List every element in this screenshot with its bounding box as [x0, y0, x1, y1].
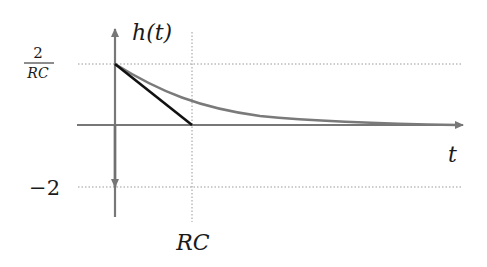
y-tick-bottom-label: −2: [29, 176, 60, 200]
x-tick-rc-label: RC: [175, 230, 210, 255]
y-tick-top-denominator: RC: [26, 65, 49, 81]
y-tick-top-numerator: 2: [33, 44, 43, 62]
impulse-response-plot: h(t) t 2 RC −2 RC: [0, 0, 487, 267]
y-tick-top-label: 2 RC: [24, 44, 54, 81]
exponential-decay-curve: [115, 64, 458, 125]
y-axis-label: h(t): [132, 20, 172, 45]
grid-lines: [78, 32, 462, 222]
tangent-line: [115, 64, 192, 125]
x-axis-label: t: [448, 142, 457, 167]
